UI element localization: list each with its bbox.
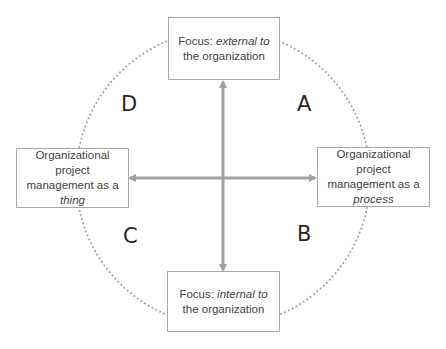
- right-box-emphasis: process: [353, 193, 393, 205]
- top-box-suffix: the organization: [183, 50, 265, 62]
- top-box-emphasis: external to: [216, 35, 270, 47]
- quadrant-label-a: A: [297, 92, 311, 116]
- right-box-line1: Organizational: [336, 148, 410, 160]
- left-box-line3: management as a: [26, 179, 118, 191]
- bottom-box-prefix: Focus:: [179, 288, 217, 300]
- bottom-box-suffix: the organization: [183, 303, 265, 315]
- quadrant-label-d: D: [121, 92, 137, 116]
- top-box-prefix: Focus:: [178, 35, 216, 47]
- right-box-line3: management as a: [327, 178, 419, 190]
- bottom-box-internal-focus: Focus: internal to the organization: [167, 271, 280, 332]
- quadrant-label-b: B: [297, 222, 311, 246]
- left-box-opm-thing: Organizational project management as a t…: [16, 148, 129, 208]
- bottom-box-emphasis: internal to: [217, 288, 268, 300]
- left-box-line1: Organizational: [35, 149, 109, 161]
- left-box-emphasis: thing: [60, 194, 85, 206]
- right-box-opm-process: Organizational project management as a p…: [317, 147, 430, 207]
- quadrant-label-c: C: [123, 224, 138, 248]
- right-box-line2: project: [356, 163, 391, 175]
- top-box-external-focus: Focus: external to the organization: [168, 17, 280, 80]
- left-box-line2: project: [55, 164, 90, 176]
